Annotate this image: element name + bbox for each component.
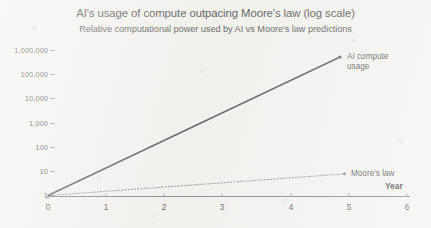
chart-figure: AI's usage of compute outpacing Moore's … xyxy=(0,0,431,228)
series-endpoint-ai-compute-usage xyxy=(339,56,342,59)
series-label-moores-law: Moore's law xyxy=(351,169,394,179)
series-endpoint-moores-law xyxy=(343,172,346,175)
series-label-ai-compute-usage: AI compute usage xyxy=(347,52,388,71)
y-axis-ticks xyxy=(50,51,55,196)
series-label-ai-compute-usage-line2: usage xyxy=(347,62,388,72)
series-line-ai-compute-usage xyxy=(48,58,339,196)
series-line-moores-law xyxy=(48,174,343,196)
x-axis-title: Year xyxy=(385,181,403,191)
plot-area xyxy=(0,0,431,228)
series-label-ai-compute-usage-line1: AI compute xyxy=(347,52,388,62)
